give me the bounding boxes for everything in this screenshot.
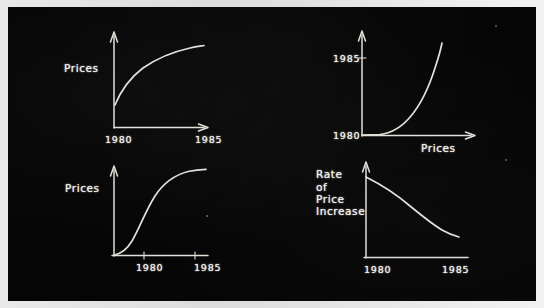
chalk-speck	[206, 215, 208, 217]
xtick-1985-bottom-left: 1985	[194, 261, 221, 274]
label-rate-line-2: of	[316, 181, 327, 194]
label-rate-line-1: Rate	[316, 168, 342, 181]
label-rate-line-4: Increase	[316, 205, 365, 218]
chart-bottom-right-curve	[366, 177, 459, 237]
ytick-1980-top-right: 1980	[333, 129, 360, 142]
chalk-speck	[495, 25, 497, 27]
xaxis-label-prices-top-right: Prices	[421, 142, 456, 155]
label-prices-bottom-left: Prices	[65, 182, 100, 195]
label-prices-top-left: Prices	[64, 62, 99, 75]
xtick-1980-bottom-right: 1980	[364, 263, 391, 276]
chart-top-right-curve	[362, 43, 442, 135]
xtick-1980-top-left: 1980	[105, 133, 132, 146]
chart-top-left-axes	[111, 32, 209, 131]
chalk-drawing	[8, 7, 536, 301]
chalk-speck	[505, 159, 507, 161]
chart-top-left-curve	[115, 46, 204, 106]
xtick-1985-bottom-right: 1985	[442, 263, 469, 276]
chart-bottom-left-axes	[111, 166, 209, 259]
chart-bottom-right-axes	[363, 162, 469, 258]
blackboard: Prices 1980 1985 1985 1980 Prices Prices…	[8, 7, 536, 301]
chart-top-right-axes	[359, 31, 476, 139]
xtick-1980-bottom-left: 1980	[136, 261, 163, 274]
photo-frame: Prices 1980 1985 1985 1980 Prices Prices…	[0, 0, 544, 308]
ytick-1985-top-right: 1985	[333, 52, 360, 65]
chart-bottom-left-curve	[114, 169, 206, 255]
xtick-1985-top-left: 1985	[195, 133, 222, 146]
label-rate-line-3: Price	[316, 193, 345, 206]
